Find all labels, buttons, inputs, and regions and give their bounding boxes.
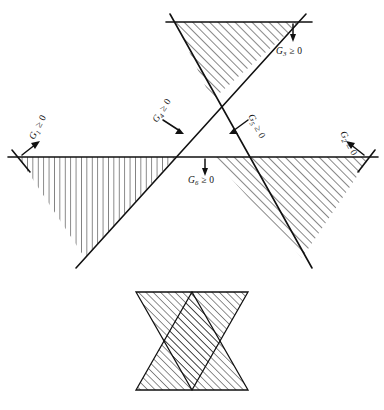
label-g2: G2 ≥ 0 xyxy=(337,129,359,158)
constraint-region-diagram: G3 ≥ 0 G6 ≥ 0 G1 ≥ 0 G2 ≥ 0 G4 ≥ 0 G5 ≥ … xyxy=(0,0,384,410)
top-triangle-region xyxy=(175,22,300,100)
star-figure xyxy=(136,292,248,390)
label-g1: G1 ≥ 0 xyxy=(27,113,49,142)
label-g4: G4 ≥ 0 xyxy=(150,97,174,125)
main-figure: G3 ≥ 0 G6 ≥ 0 G1 ≥ 0 G2 ≥ 0 G4 ≥ 0 G5 ≥ … xyxy=(8,14,378,268)
arrow-g4 xyxy=(163,120,184,134)
label-g3: G3 ≥ 0 xyxy=(276,46,302,57)
arrow-g5 xyxy=(229,120,248,134)
figure-root: G3 ≥ 0 G6 ≥ 0 G1 ≥ 0 G2 ≥ 0 G4 ≥ 0 G5 ≥ … xyxy=(0,0,384,410)
arrow-g1 xyxy=(22,141,40,155)
label-g5: G5 ≥ 0 xyxy=(245,112,267,141)
arrow-g6 xyxy=(202,159,208,176)
label-g6: G6 ≥ 0 xyxy=(188,175,214,186)
left-triangle-region xyxy=(18,157,175,258)
right-triangle-region xyxy=(212,157,370,258)
